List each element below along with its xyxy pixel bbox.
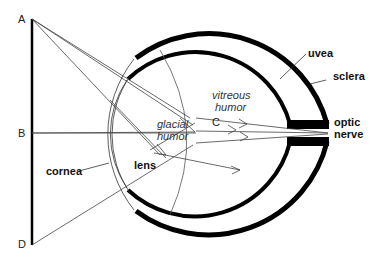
vitreous-humor-label: humor	[215, 101, 248, 113]
point-b: B	[18, 127, 25, 139]
cornea-label: cornea	[46, 165, 83, 177]
vitreous-label: vitreous	[212, 89, 251, 101]
point-c: C	[212, 116, 220, 128]
optic-nerve-top	[287, 120, 329, 129]
glacial-humor-label: humor	[157, 130, 190, 142]
uvea-arc	[128, 52, 290, 216]
glacial-label: glacial	[157, 118, 189, 130]
uvea-label: uvea	[308, 47, 334, 59]
optic-nerve-bottom	[287, 137, 329, 146]
nerve-label: nerve	[334, 128, 363, 140]
point-a: A	[18, 13, 26, 25]
optic-label: optic	[334, 116, 360, 128]
sclera-label: sclera	[333, 70, 366, 82]
eye-diagram: A B C D uvea sclera optic nerve vitreous…	[0, 0, 382, 264]
lens-label: lens	[134, 159, 156, 171]
point-d: D	[18, 238, 26, 250]
